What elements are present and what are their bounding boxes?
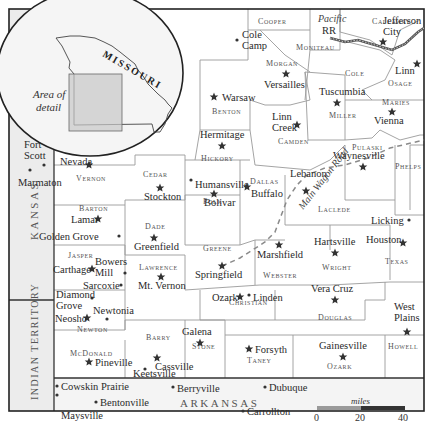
- town-dot-icon: [42, 163, 45, 166]
- county-label: Vernon: [76, 174, 106, 183]
- town-dot-icon: [407, 218, 410, 221]
- town-springfield: Springfield: [195, 262, 243, 281]
- town-linn: Linn: [395, 60, 421, 77]
- town-label: Bentonville: [100, 397, 149, 408]
- county-seat-star-icon: [218, 142, 227, 150]
- town-cowskin-prairie: Cowskin Prairie: [55, 381, 129, 392]
- town-label: Tuscumbia: [319, 86, 366, 97]
- town-label: Licking: [371, 215, 404, 226]
- town-versailles: Versailles: [264, 70, 305, 91]
- county-label: Moniteau: [296, 43, 335, 52]
- county-seat-star-icon: [331, 249, 340, 257]
- county-seat-star-icon: [282, 70, 291, 78]
- town-jefferson-city: JeffersonCity: [379, 15, 422, 46]
- town-label: Vera Cruz: [311, 283, 354, 294]
- inset-caption-line1: Area of: [32, 88, 67, 100]
- county-label: Greene: [203, 244, 232, 253]
- town-label: Houston: [366, 234, 402, 245]
- town-label: Hermitage: [200, 129, 245, 140]
- town-label: Marmaton: [18, 177, 62, 188]
- town-label: Warsaw: [222, 92, 256, 103]
- town-dot-icon: [247, 293, 250, 296]
- county-label: Barry: [146, 333, 171, 342]
- town-berryville: Berryville: [171, 383, 220, 394]
- county-seat-star-icon: [333, 99, 342, 107]
- county-label: Miller: [329, 111, 357, 120]
- town-golden-grove: Golden Grove: [39, 231, 121, 242]
- county-label: Barton: [79, 204, 108, 213]
- town-greenfield: Greenfield: [134, 234, 180, 253]
- county-seat-star-icon: [245, 345, 254, 353]
- town-hermitage: Hermitage: [200, 129, 245, 150]
- county-seat-star-icon: [359, 163, 368, 171]
- town-neosho: Neosho: [55, 313, 91, 324]
- town-label: Linn: [272, 111, 293, 122]
- town-label: Maysville: [61, 410, 103, 421]
- scale-unit-label: miles: [351, 396, 370, 406]
- town-label: Vienna: [374, 115, 404, 126]
- town-label: Galena: [182, 326, 212, 337]
- town-label: Newtonia: [93, 305, 134, 316]
- town-dot-icon: [119, 283, 122, 286]
- county-seat-star-icon: [403, 328, 412, 336]
- inset-locator-map: MISSOURI Area of detail: [0, 0, 183, 156]
- pacific-rr-label-2: RR: [322, 25, 336, 36]
- county-label: Laclede: [318, 205, 351, 214]
- county-label: Howell: [388, 342, 418, 351]
- county-label: Camden: [278, 137, 309, 146]
- town-dubuque: Dubuque: [263, 382, 307, 393]
- town-dot-icon: [189, 178, 192, 181]
- town-houston: Houston: [366, 234, 407, 247]
- town-label: Carrollton: [247, 406, 291, 417]
- county-label: Maries: [382, 98, 410, 107]
- town-keetsville: Keetsville: [133, 367, 176, 379]
- town-label: Neosho: [55, 313, 87, 324]
- town-licking: Licking: [371, 215, 411, 226]
- town-label: Diamond: [56, 289, 96, 300]
- town-label: Waynesville: [333, 150, 385, 161]
- town-hartsville: Hartsville: [314, 236, 356, 257]
- county-label: Newton: [77, 325, 108, 334]
- town-newtonia: Newtonia: [93, 305, 134, 321]
- town-bentonville: Bentonville: [94, 397, 149, 408]
- county-label: Douglas: [318, 313, 352, 322]
- town-label: Forsyth: [255, 344, 288, 355]
- town-label: Hartsville: [314, 236, 356, 247]
- scale-tick-0: 0: [314, 412, 319, 423]
- county-label: Cooper: [258, 17, 287, 26]
- town-pineville: Pineville: [85, 357, 133, 368]
- county-label: Ozark: [327, 362, 352, 371]
- town-humansville: Humansville: [189, 178, 249, 190]
- town-label: Camp: [242, 40, 267, 51]
- town-label: Mt. Vernon: [138, 280, 186, 291]
- town-label: Cole: [242, 29, 262, 40]
- town-label: Greenfield: [134, 241, 180, 252]
- town-label: Bowers: [95, 256, 127, 267]
- town-label: Gainesville: [319, 340, 367, 351]
- town-label: Pineville: [95, 357, 133, 368]
- town-waynesville: Waynesville: [333, 150, 385, 171]
- town-label: Fort: [24, 139, 42, 150]
- town-bolivar: Bolivar: [204, 190, 236, 209]
- map-canvas: MISSOURI Area of detail KANSAS INDIAN TE…: [0, 0, 433, 433]
- town-label: City: [383, 26, 402, 37]
- scale-segment-2: [361, 406, 405, 410]
- town-label: Dubuque: [269, 382, 308, 393]
- county-label: Cedar: [143, 170, 168, 179]
- county-label: Webster: [263, 271, 297, 280]
- scale-tick-20: 20: [355, 412, 365, 423]
- town-label: Linden: [253, 292, 283, 303]
- town-tuscumbia: Tuscumbia: [319, 86, 366, 107]
- town-label: Nevada: [60, 156, 92, 167]
- county-label: Hickory: [201, 154, 234, 163]
- town-label: Lamar: [71, 214, 99, 225]
- indian-territory-label: INDIAN TERRITORY: [29, 283, 40, 400]
- town-carrollton: Carrollton: [241, 406, 291, 417]
- county-seat-star-icon: [275, 241, 284, 249]
- town-nevada: Nevada: [60, 156, 93, 169]
- county-label: Osage: [388, 79, 412, 88]
- town-gainesville: Gainesville: [319, 340, 367, 361]
- town-label: Keetsville: [133, 368, 176, 379]
- scale-segment-1: [317, 406, 361, 410]
- scale-tick-40: 40: [398, 412, 408, 423]
